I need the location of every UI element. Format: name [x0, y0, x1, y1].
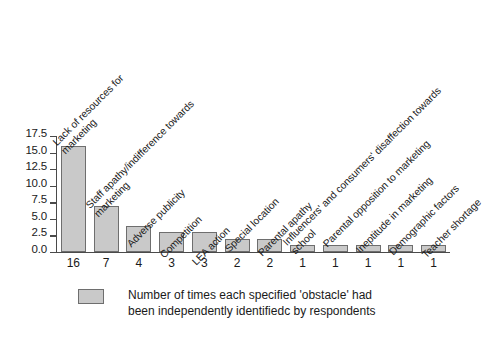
- legend: Number of times each specified 'obstacle…: [78, 288, 376, 319]
- y-axis-tick-mark: [50, 252, 56, 253]
- y-axis-tick-label: 15.0: [25, 145, 47, 157]
- x-axis-value-label: 1: [414, 257, 454, 269]
- y-axis-tick-mark: [50, 235, 56, 236]
- y-axis-tick-mark: [50, 219, 56, 220]
- legend-label: Number of times each specified 'obstacle…: [128, 288, 376, 319]
- y-axis-tick-mark: [50, 186, 56, 187]
- y-axis-tick-mark: [50, 202, 56, 203]
- legend-swatch: [78, 289, 104, 304]
- y-axis-tick-label: 2.5: [32, 227, 47, 239]
- y-axis-tick-mark: [50, 169, 56, 170]
- y-axis-tick-label: 10.0: [25, 178, 47, 190]
- bar: [61, 146, 86, 252]
- y-axis-tick-label: 7.5: [32, 194, 47, 206]
- y-axis-tick-label: 5.0: [32, 211, 47, 223]
- y-axis-tick-label: 0.0: [32, 244, 47, 256]
- y-axis-tick-label: 17.5: [25, 128, 47, 140]
- y-axis-tick-mark: [50, 153, 56, 154]
- y-axis-tick-label: 12.5: [25, 161, 47, 173]
